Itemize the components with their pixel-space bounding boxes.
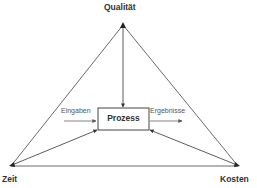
vertex-label-time: Zeit	[2, 174, 17, 184]
process-label: Prozess	[98, 113, 149, 123]
arrow-cost-to-process	[150, 130, 237, 165]
vertex-label-cost: Kosten	[220, 174, 249, 184]
outputs-label: Ergebnisse	[150, 107, 185, 114]
inputs-label: Eingaben	[61, 107, 91, 114]
edge-quality-cost	[123, 25, 238, 166]
triangle-edges	[11, 25, 238, 166]
vertex-label-quality: Qualität	[104, 2, 136, 12]
triangle-diagram	[0, 0, 257, 188]
edge-quality-time	[11, 25, 123, 166]
arrow-time-to-process	[12, 130, 97, 165]
